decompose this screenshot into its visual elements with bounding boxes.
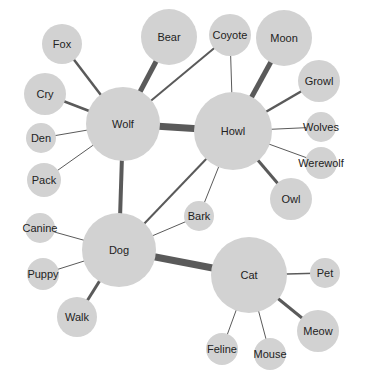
node-label: Coyote [213, 29, 248, 41]
node-owl: Owl [270, 178, 312, 220]
node-cat: Cat [211, 237, 287, 313]
node-label: Puppy [27, 268, 59, 280]
node-label: Moon [270, 32, 298, 44]
node-pet: Pet [310, 258, 340, 288]
node-label: Howl [221, 125, 245, 137]
node-label: Pet [317, 267, 334, 279]
node-label: Wolf [112, 118, 135, 130]
node-puppy: Puppy [27, 258, 59, 290]
node-label: Mouse [253, 348, 286, 360]
node-label: Den [31, 132, 51, 144]
node-canine: Canine [23, 213, 58, 243]
node-label: Dog [109, 244, 129, 256]
node-pack: Pack [27, 163, 61, 197]
node-label: Pack [32, 174, 57, 186]
node-label: Walk [65, 311, 90, 323]
node-mouse: Mouse [253, 338, 286, 370]
node-coyote: Coyote [209, 14, 251, 56]
node-label: Growl [305, 75, 334, 87]
node-walk: Walk [57, 297, 97, 337]
node-cry: Cry [24, 73, 66, 115]
node-label: Werewolf [298, 157, 345, 169]
node-werewolf: Werewolf [298, 147, 345, 179]
node-label: Wolves [303, 121, 339, 133]
node-bark: Bark [184, 201, 214, 231]
node-moon: Moon [256, 10, 312, 66]
node-growl: Growl [298, 60, 340, 102]
node-label: Feline [207, 343, 237, 355]
node-label: Owl [282, 193, 301, 205]
node-feline: Feline [206, 333, 238, 365]
node-wolf: Wolf [86, 87, 160, 161]
node-label: Meow [303, 325, 332, 337]
node-label: Fox [53, 38, 72, 50]
node-meow: Meow [297, 310, 339, 352]
node-wolves: Wolves [303, 112, 339, 142]
node-label: Bark [188, 210, 211, 222]
node-label: Cat [240, 269, 257, 281]
node-label: Bear [157, 31, 181, 43]
node-label: Canine [23, 222, 58, 234]
node-dog: Dog [82, 213, 156, 287]
word-association-network: FoxBearCoyoteMoonGrowlCryWolfHowlWolvesD… [0, 0, 365, 382]
node-fox: Fox [42, 24, 82, 64]
node-howl: Howl [194, 92, 272, 170]
nodes-layer: FoxBearCoyoteMoonGrowlCryWolfHowlWolvesD… [23, 9, 345, 370]
node-bear: Bear [141, 9, 197, 65]
node-den: Den [26, 123, 56, 153]
node-label: Cry [36, 88, 54, 100]
